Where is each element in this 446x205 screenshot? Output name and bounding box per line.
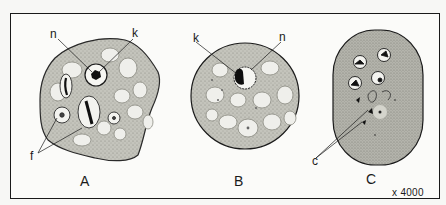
microscopy-figure: n k f k n c A B C x 4000 xyxy=(0,0,446,205)
panel-label-b: B xyxy=(234,174,243,188)
label-b-n: n xyxy=(279,31,286,43)
label-a-k: k xyxy=(132,27,138,39)
label-a-n: n xyxy=(50,28,57,40)
cell-a xyxy=(38,39,160,161)
cell-b xyxy=(191,42,299,149)
cell-c xyxy=(316,30,423,165)
label-c-c: c xyxy=(312,155,318,167)
label-a-f: f xyxy=(30,150,33,162)
label-b-k: k xyxy=(193,32,199,44)
magnification-label: x 4000 xyxy=(392,187,424,198)
panel-label-a: A xyxy=(80,174,89,188)
cell-drawings xyxy=(0,0,446,205)
panel-label-c: C xyxy=(366,172,376,186)
